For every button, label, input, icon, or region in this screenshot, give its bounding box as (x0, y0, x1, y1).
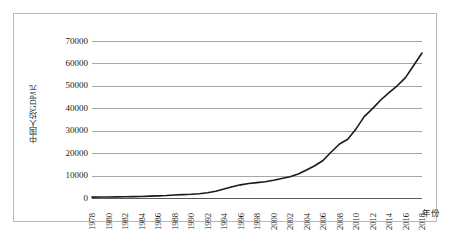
x-axis-tick-label: 1980 (104, 200, 114, 230)
x-axis-tick-label: 2016 (401, 200, 411, 230)
y-axis-tick-label: 20000 (28, 149, 88, 158)
y-axis-tick-label: 30000 (28, 126, 88, 135)
x-axis-tick-label: 1988 (170, 200, 180, 230)
x-axis-tick-label: 1984 (137, 200, 147, 230)
x-axis-tick-label: 2008 (335, 200, 345, 230)
x-axis-tick-label: 2000 (269, 200, 279, 230)
y-axis-tick-label: 60000 (28, 59, 88, 68)
x-axis-tick-label: 1978 (87, 200, 97, 230)
y-axis-tick-labels: 010000200003000040000500006000070000 (26, 41, 88, 198)
y-axis-tick-label: 50000 (28, 81, 88, 90)
plot-area (92, 41, 422, 198)
x-axis-tick-label: 1992 (203, 200, 213, 230)
x-axis-tick-label: 1982 (120, 200, 130, 230)
x-axis-title: 年份 (422, 206, 440, 218)
y-axis-tick-label: 40000 (28, 104, 88, 113)
y-axis-tick-label: 10000 (28, 171, 88, 180)
x-axis-tick-label: 1986 (153, 200, 163, 230)
x-axis-tick-label: 1990 (186, 200, 196, 230)
x-axis-tick-label: 1996 (236, 200, 246, 230)
x-axis-tick-label: 2006 (318, 200, 328, 230)
y-axis-tick-label: 70000 (28, 37, 88, 46)
x-axis-tick-label: 1994 (219, 200, 229, 230)
chart-screenshot: 中国人均GDP/元 010000200003000040000500006000… (0, 0, 450, 237)
y-axis-tick-label: 0 (28, 194, 88, 203)
x-axis-tick-label: 2004 (302, 200, 312, 230)
x-axis-tick-labels: 1978198019821984198619881990199219941996… (92, 200, 422, 232)
line-series-china-gdp-per-capita (92, 41, 422, 198)
x-axis-tick-label: 2002 (285, 200, 295, 230)
chart-frame: 中国人均GDP/元 010000200003000040000500006000… (13, 13, 437, 222)
x-axis-baseline (92, 198, 422, 199)
x-axis-tick-label: 2014 (384, 200, 394, 230)
x-axis-tick-label: 2010 (351, 200, 361, 230)
x-axis-tick-label: 1998 (252, 200, 262, 230)
x-axis-tick-label: 2012 (368, 200, 378, 230)
